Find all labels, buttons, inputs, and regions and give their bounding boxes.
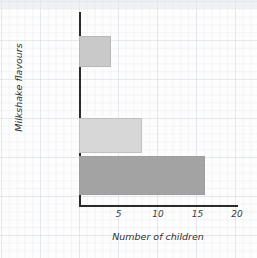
- x-axis-title: Number of children: [79, 231, 237, 242]
- bar: [79, 118, 142, 153]
- bar: [79, 156, 205, 195]
- paper-top-shading: [0, 0, 257, 9]
- y-axis-title: Milkshake flavours: [13, 18, 24, 158]
- bar-chart: Banana BlissVanilla DreamCheeky ChocMerr…: [0, 0, 257, 258]
- x-axis-tick-label: 5: [107, 209, 131, 219]
- x-axis-tick-label: 10: [146, 209, 170, 219]
- bar: [79, 36, 111, 67]
- x-axis-tick-label: 20: [225, 209, 249, 219]
- x-axis-tick-label: 15: [186, 209, 210, 219]
- plot-area: [79, 12, 237, 206]
